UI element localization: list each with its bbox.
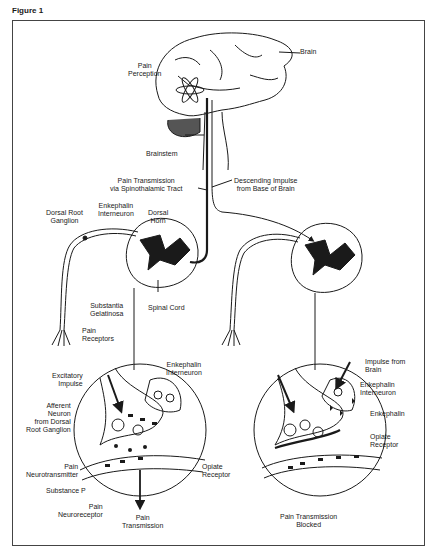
label-substantia-gelatinosa: SubstantiaGelatinosa: [90, 302, 123, 318]
label-brain: Brain: [300, 48, 316, 56]
label-opiate-receptor-right: OpiateReceptor: [370, 433, 398, 449]
label-pain-neurotransmitter: PainNeurotransmitter: [26, 463, 78, 479]
label-descending-impulse: Descending Impulsefrom Base of Brain: [234, 177, 297, 193]
label-enkephalin-interneuron-right: EnkephalinInterneuron: [360, 381, 396, 397]
label-dorsal-horn: DorsalHorn: [148, 209, 168, 225]
label-enkephalin: Enkephalin: [370, 410, 405, 418]
right-spinal-cord: [222, 223, 362, 346]
label-dorsal-root-ganglion: Dorsal RootGanglion: [46, 209, 83, 225]
label-substance-p: Substance P: [46, 487, 86, 495]
label-pain-neuroreceptor: PainNeuroreceptor: [58, 503, 103, 519]
label-enkephalin-interneuron-synapse: EnkephalinInterneuron: [166, 361, 202, 377]
label-brainstem: Brainstem: [146, 150, 178, 158]
label-afferent-neuron: AfferentNeuronfrom DorsalRoot Ganglion: [26, 402, 71, 434]
label-pain-transmission-blocked: Pain TransmissionBlocked: [280, 513, 337, 529]
left-synapse-circle: [74, 364, 206, 505]
label-pain-receptors: PainReceptors: [82, 327, 114, 343]
label-enkephalin-interneuron-cord: EnkephalinInterneuron: [98, 202, 134, 218]
left-spinal-cord: [52, 218, 198, 346]
label-impulse-from-brain: Impulse fromBrain: [365, 358, 405, 374]
label-opiate-receptor-left: OpiateReceptor: [202, 463, 230, 479]
label-pain-perception: PainPerception: [128, 62, 161, 78]
descending-pathway: [212, 185, 312, 240]
pain-perception-symbol: [176, 76, 204, 104]
label-pain-transmission: PainTransmission: [122, 514, 163, 530]
label-spinal-cord: Spinal Cord: [148, 304, 185, 312]
label-excitatory-impulse: ExcitatoryImpulse: [52, 372, 83, 388]
label-pain-transmission-tract: Pain Transmissionvia Spinothalamic Tract: [110, 177, 182, 193]
